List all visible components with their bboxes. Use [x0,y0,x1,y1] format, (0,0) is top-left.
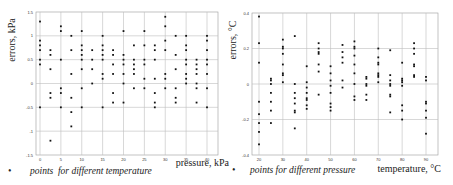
x-tick-label: 40 [304,157,309,162]
data-point [123,64,125,66]
data-point [354,46,356,48]
data-point [365,78,367,80]
x-tick-label: 70 [376,157,381,162]
data-point [39,49,41,51]
data-point [185,49,187,51]
right-x-axis-label: temperature, °C [378,163,442,174]
data-point [354,64,356,66]
data-point [258,101,260,103]
data-point [377,74,379,76]
data-point [413,64,415,66]
y-tick-label: 0 [31,81,34,86]
data-point [318,51,320,53]
data-point [282,74,284,76]
data-point [50,92,52,94]
data-point [143,64,145,66]
data-point [270,83,272,85]
data-point [175,87,177,89]
data-point [282,64,284,66]
data-point [282,72,284,74]
data-point [175,68,177,70]
data-point [164,73,166,75]
data-point [81,68,83,70]
data-point [401,85,403,87]
y-tick-label: 1 [31,33,34,38]
data-point [318,64,320,66]
data-point [60,30,62,32]
data-point [401,62,403,64]
data-point [102,78,104,80]
data-point [102,44,104,46]
x-tick-label: 0 [39,157,42,162]
data-point [294,127,296,129]
data-point [154,44,156,46]
y-tick-label: 0.4 [243,11,249,16]
data-point [70,35,72,37]
data-point [185,59,187,61]
data-point [81,87,83,89]
data-point [102,73,104,75]
y-tick-label: 0.2 [243,46,249,51]
data-point [39,106,41,108]
data-point [185,78,187,80]
x-tick-label: 25 [142,157,147,162]
data-point [354,55,356,57]
data-point [354,41,356,43]
data-point [282,39,284,41]
data-point [196,59,198,61]
data-point [185,35,187,37]
y-tick-label: 0.5 [27,57,33,62]
y-tick-label: -0.5 [26,105,34,110]
data-point [342,87,344,89]
data-point [425,80,427,82]
y-tick-label: -1.5 [26,153,34,158]
data-point [365,99,367,101]
data-point [70,49,72,51]
data-point [377,81,379,83]
data-point [50,49,52,51]
data-point [365,76,367,78]
data-point [102,49,104,51]
data-point [258,143,260,145]
x-tick-label: 60 [352,157,357,162]
data-point [206,35,208,37]
y-tick-label: 1.5 [27,10,33,15]
data-point [270,80,272,82]
data-point [91,68,93,70]
data-point [143,30,145,32]
x-tick-label: 30 [163,157,168,162]
data-point [342,62,344,64]
data-point [164,16,166,18]
x-tick-label: 5 [60,157,63,162]
data-point [60,106,62,108]
data-point [143,87,145,89]
data-point [401,110,403,112]
data-point [425,76,427,78]
data-point [401,78,403,80]
data-point [330,72,332,74]
data-point [154,102,156,104]
data-point [282,48,284,50]
data-point [185,73,187,75]
data-point [330,92,332,94]
data-point [112,49,114,51]
data-point [401,81,403,83]
data-point [70,73,72,75]
data-point [342,80,344,82]
y-tick-label: -0.2 [242,117,250,122]
data-point [175,54,177,56]
data-point [389,49,391,51]
x-tick-label: 10 [80,157,85,162]
data-point [401,119,403,121]
data-point [102,59,104,61]
data-point [112,64,114,66]
right-y-axis-label: errors, °C [227,20,238,59]
x-tick-label: 90 [424,157,429,162]
data-point [389,85,391,87]
data-point [354,72,356,74]
data-point [294,103,296,105]
data-point [282,53,284,55]
data-point [123,73,125,75]
data-point [206,59,208,61]
data-point [133,87,135,89]
